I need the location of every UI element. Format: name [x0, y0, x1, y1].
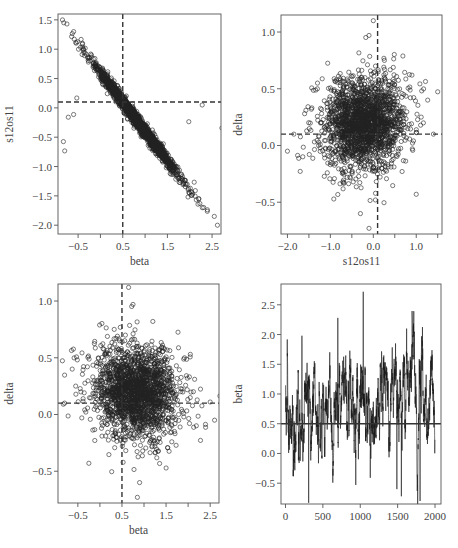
x-tick-label: 1000 [349, 510, 372, 522]
y-axis-label: delta [3, 382, 15, 404]
x-axis-label: beta [129, 524, 148, 536]
x-axis-label: beta [130, 255, 149, 267]
y-tick-label: 0.0 [261, 447, 275, 459]
x-tick-label: 0 [283, 510, 289, 522]
y-tick-label: 0.5 [38, 73, 52, 85]
plot-area [60, 285, 222, 499]
y-axis-label: beta [232, 384, 244, 403]
y-tick-label: 2.0 [261, 329, 275, 341]
scatter-plot-beta-delta: −0.50.51.52.51.00.50.0−0.5betadelta [0, 274, 229, 548]
scatter-plot-beta-s12os11: −0.50.51.52.51.51.00.50.0−0.5−1.0−1.5−2.… [0, 0, 229, 274]
x-tick-label: 0.0 [366, 240, 380, 252]
data-points [285, 19, 439, 231]
y-tick-label: 0.0 [261, 139, 275, 151]
x-tick-label: 2.5 [203, 509, 217, 521]
plot-area [285, 19, 439, 231]
y-tick-label: 0.5 [261, 418, 275, 430]
trace-plot-beta: 05001000150020002.52.01.51.00.50.0−0.5be… [229, 274, 458, 548]
panel-s12os11-vs-delta: −2.0−1.00.01.01.00.50.0−0.5s12os11delta [229, 0, 458, 274]
x-tick-label: 1.5 [161, 240, 175, 252]
y-tick-label: −0.5 [32, 465, 52, 477]
x-axis-label: s12os11 [343, 255, 381, 267]
y-tick-label: −0.5 [255, 196, 275, 208]
x-tick-label: 1500 [387, 510, 410, 522]
y-tick-label: 1.0 [261, 388, 275, 400]
x-tick-label: 2000 [424, 510, 447, 522]
y-tick-label: 0.5 [261, 83, 275, 95]
y-tick-label: −1.5 [32, 190, 52, 202]
y-tick-label: 1.0 [38, 295, 52, 307]
panel-beta-trace: 05001000150020002.52.01.51.00.50.0−0.5be… [229, 274, 458, 548]
x-tick-label: 0.5 [115, 509, 129, 521]
y-tick-label: −2.0 [32, 219, 52, 231]
y-tick-label: 2.5 [261, 299, 275, 311]
y-axis-label: delta [232, 113, 244, 135]
plot-area [60, 18, 224, 227]
y-tick-label: 0.0 [38, 408, 52, 420]
panel-beta-vs-delta: −0.50.51.52.51.00.50.0−0.5betadelta [0, 274, 229, 548]
data-points [60, 285, 222, 499]
data-points [60, 18, 224, 227]
y-tick-label: 0.5 [38, 352, 52, 364]
y-tick-label: −0.5 [255, 477, 275, 489]
trace-line [285, 292, 434, 504]
y-axis-label: s12os11 [3, 105, 15, 143]
y-tick-label: 0.0 [38, 102, 52, 114]
x-tick-label: −1.0 [320, 240, 340, 252]
x-tick-label: −2.0 [277, 240, 297, 252]
plot-area [285, 292, 434, 504]
x-tick-label: 1.5 [159, 509, 173, 521]
x-tick-label: −0.5 [68, 240, 88, 252]
panel-beta-vs-s12os11: −0.50.51.52.51.51.00.50.0−0.5−1.0−1.5−2.… [0, 0, 229, 274]
x-tick-label: 2.5 [205, 240, 219, 252]
y-tick-label: 1.5 [38, 14, 52, 26]
y-tick-label: −0.5 [32, 131, 52, 143]
x-tick-label: 0.5 [116, 240, 130, 252]
y-tick-label: −1.0 [32, 161, 52, 173]
x-tick-label: 1.0 [409, 240, 423, 252]
x-tick-label: −0.5 [68, 509, 88, 521]
y-tick-label: 1.5 [261, 358, 275, 370]
x-tick-label: 500 [315, 510, 332, 522]
scatter-plot-s12os11-delta: −2.0−1.00.01.01.00.50.0−0.5s12os11delta [229, 0, 458, 274]
y-tick-label: 1.0 [38, 43, 52, 55]
y-tick-label: 1.0 [261, 26, 275, 38]
